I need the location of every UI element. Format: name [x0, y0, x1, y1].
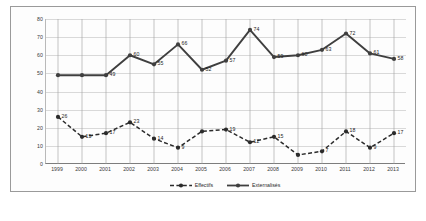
series-marker [56, 115, 60, 119]
series-marker [224, 59, 228, 63]
x-axis-tick-label: 2004 [171, 166, 183, 172]
series-marker [80, 73, 84, 77]
data-point-label: 72 [350, 30, 356, 36]
series-marker [248, 140, 252, 144]
y-axis-tick-label: 40 [21, 89, 43, 95]
series-marker [152, 62, 156, 66]
x-axis-tick-label: 2008 [267, 166, 279, 172]
legend-item[interactable]: Effectifs [170, 182, 213, 189]
legend-item[interactable]: Externalisés [227, 182, 280, 189]
x-axis-tick-label: 2009 [291, 166, 303, 172]
series-marker [368, 51, 372, 55]
data-point-label: 17 [110, 129, 116, 135]
legend-label: Effectifs [195, 182, 213, 188]
series-marker [296, 153, 300, 157]
x-axis-tick-label: 2002 [123, 166, 135, 172]
series-marker [392, 131, 396, 135]
figure-caption [10, 196, 416, 218]
legend-swatch-icon [227, 182, 249, 189]
data-point-label: 12 [254, 138, 260, 144]
series-svg [46, 19, 406, 164]
data-point-label: 60 [134, 51, 140, 57]
data-point-label: 52 [206, 66, 212, 72]
x-axis-tick-label: 2012 [363, 166, 375, 172]
series-marker [104, 131, 108, 135]
chart-legend: EffectifsExternalisés [45, 179, 405, 191]
data-point-label: 55 [158, 60, 164, 66]
series-marker [200, 68, 204, 72]
series-marker [320, 149, 324, 153]
y-axis-tick-label: 0 [21, 161, 43, 167]
series-marker [176, 146, 180, 150]
y-axis-tick-label: 50 [21, 70, 43, 76]
y-axis-tick-label: 80 [21, 16, 43, 22]
data-point-label: 15 [278, 133, 284, 139]
x-axis-tick-label: 2013 [387, 166, 399, 172]
x-axis-tick-label: 2001 [99, 166, 111, 172]
series-marker [224, 127, 228, 131]
data-point-label: 14 [158, 135, 164, 141]
y-axis-tick-label: 60 [21, 52, 43, 58]
series-marker [56, 73, 60, 77]
series-marker [320, 48, 324, 52]
series-marker [80, 135, 84, 139]
series-marker [272, 55, 276, 59]
chart-screenshot: 01020304050607080 4960556652577459606372… [0, 0, 426, 221]
series-marker [104, 73, 108, 77]
data-point-label: 26 [62, 113, 68, 119]
data-point-label: 17 [398, 129, 404, 135]
legend-swatch-icon [170, 182, 192, 189]
data-point-label: 9 [182, 144, 185, 150]
x-axis-tick-label: 2007 [243, 166, 255, 172]
data-point-label: 59 [278, 53, 284, 59]
data-point-label: 15 [86, 133, 92, 139]
y-axis-labels: 01020304050607080 [17, 19, 43, 164]
y-axis-tick-label: 70 [21, 34, 43, 40]
data-point-label: 18 [350, 127, 356, 133]
series-marker [344, 129, 348, 133]
x-axis-tick-label: 1999 [51, 166, 63, 172]
series-marker [272, 135, 276, 139]
series-marker [128, 120, 132, 124]
data-point-label: 57 [230, 57, 236, 63]
legend-label: Externalisés [252, 182, 280, 188]
data-point-label: 61 [374, 49, 380, 55]
x-axis-tick-label: 2003 [147, 166, 159, 172]
data-point-label: 19 [230, 126, 236, 132]
series-marker [176, 42, 180, 46]
series-marker [248, 28, 252, 32]
data-point-label: 63 [326, 46, 332, 52]
chart-frame: 01020304050607080 4960556652577459606372… [10, 6, 416, 192]
plot-wrapper: 4960556652577459606372615826151723149191… [45, 19, 405, 164]
data-point-label: 23 [134, 118, 140, 124]
data-point-label: 60 [302, 51, 308, 57]
x-axis-tick-label: 2000 [75, 166, 87, 172]
data-point-label: 66 [182, 40, 188, 46]
series-marker [368, 146, 372, 150]
data-point-label: 74 [254, 26, 260, 32]
series-marker [128, 53, 132, 57]
x-axis-tick-label: 2005 [195, 166, 207, 172]
series-marker [152, 137, 156, 141]
x-axis-tick-label: 2010 [315, 166, 327, 172]
series-marker [392, 57, 396, 61]
data-point-label: 9 [374, 144, 377, 150]
y-axis-tick-label: 30 [21, 107, 43, 113]
y-axis-tick-label: 20 [21, 125, 43, 131]
series-marker [296, 53, 300, 57]
x-axis-tick-label: 2006 [219, 166, 231, 172]
data-point-label: 7 [326, 147, 329, 153]
series-marker [200, 129, 204, 133]
series-marker [344, 31, 348, 35]
data-point-label: 49 [110, 71, 116, 77]
x-axis-labels: 1999200020012002200320042005200620072008… [45, 166, 405, 178]
data-point-label: 58 [398, 55, 404, 61]
plot-area: 4960556652577459606372615826151723149191… [45, 19, 405, 164]
y-axis-tick-label: 10 [21, 143, 43, 149]
x-axis-tick-label: 2011 [339, 166, 350, 172]
